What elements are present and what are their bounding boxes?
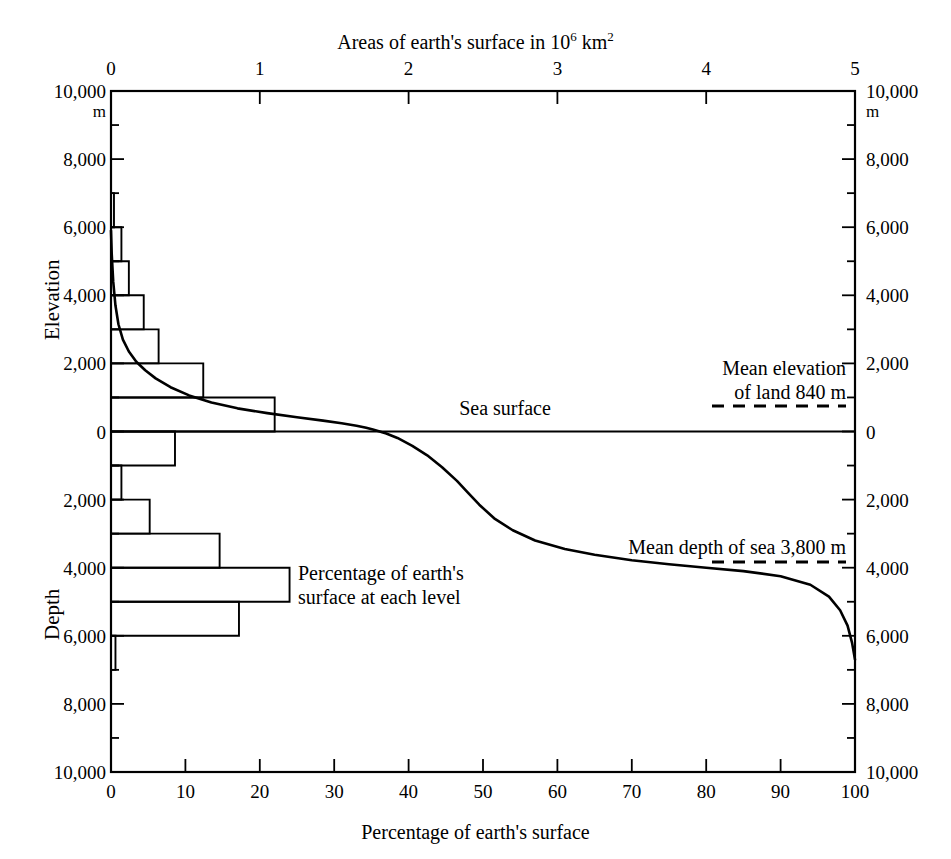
histogram-bar-12 <box>111 602 239 636</box>
bottom-tick-label-100: 100 <box>841 782 870 801</box>
top-tick-label-1: 1 <box>255 59 265 78</box>
annotation-mean-elevation-line1: Mean elevation <box>722 357 846 381</box>
left-tick-label-9: 8,000 <box>16 694 106 713</box>
annotation-histogram-line1: Percentage of earth's <box>298 562 464 586</box>
annotation-histogram-line2: surface at each level <box>298 586 464 610</box>
left-tick-label-2: 6,000 <box>16 218 106 237</box>
left-tick-label-10: 10,000 <box>16 763 106 782</box>
histogram-bar-8 <box>111 466 121 500</box>
histogram-bars <box>111 193 290 670</box>
annotation-histogram-label: Percentage of earth's surface at each le… <box>298 562 464 609</box>
right-tick-label-1: 8,000 <box>866 150 909 169</box>
top-tick-label-0: 0 <box>106 59 116 78</box>
bottom-tick-label-80: 80 <box>697 782 716 801</box>
bottom-tick-label-20: 20 <box>250 782 269 801</box>
top-tick-label-3: 3 <box>553 59 563 78</box>
right-tick-label-6: 2,000 <box>866 490 909 509</box>
right-tick-label-9: 8,000 <box>866 694 909 713</box>
bottom-tick-label-90: 90 <box>771 782 790 801</box>
annotation-sea-surface: Sea surface <box>459 398 551 418</box>
annotation-mean-elevation-line2: of land 840 m <box>722 381 846 405</box>
top-tick-label-5: 5 <box>850 59 860 78</box>
right-axis-unit-m: m <box>866 103 879 120</box>
right-tick-label-5: 0 <box>866 422 876 441</box>
annotation-mean-elevation: Mean elevation of land 840 m <box>722 357 846 404</box>
left-tick-label-5: 0 <box>16 422 106 441</box>
right-tick-label-7: 4,000 <box>866 558 909 577</box>
right-tick-label-2: 6,000 <box>866 218 909 237</box>
top-tick-label-2: 2 <box>404 59 414 78</box>
annotation-mean-depth: Mean depth of sea 3,800 m <box>628 537 846 557</box>
left-tick-label-1: 8,000 <box>16 150 106 169</box>
bottom-tick-label-60: 60 <box>548 782 567 801</box>
hypsographic-curve <box>111 231 855 660</box>
left-tick-label-6: 2,000 <box>16 490 106 509</box>
right-tick-label-8: 6,000 <box>866 626 909 645</box>
bottom-tick-label-10: 10 <box>176 782 195 801</box>
left-tick-label-0: 10,000 <box>16 82 106 101</box>
right-tick-label-4: 2,000 <box>866 354 909 373</box>
bottom-tick-label-50: 50 <box>474 782 493 801</box>
left-axis-unit-m: m <box>68 103 106 120</box>
histogram-bar-9 <box>111 500 150 534</box>
right-tick-label-10: 10,000 <box>866 763 918 782</box>
histogram-bar-11 <box>111 568 290 602</box>
top-tick-label-4: 4 <box>701 59 711 78</box>
left-tick-label-3: 4,000 <box>16 286 106 305</box>
histogram-bar-6 <box>111 397 275 431</box>
left-tick-label-7: 4,000 <box>16 558 106 577</box>
right-tick-label-3: 4,000 <box>866 286 909 305</box>
chart-plot-svg <box>0 0 951 859</box>
left-tick-label-8: 6,000 <box>16 626 106 645</box>
right-tick-label-0: 10,000 <box>866 82 918 101</box>
left-tick-label-4: 2,000 <box>16 354 106 373</box>
bottom-tick-label-30: 30 <box>325 782 344 801</box>
chart-canvas: Areas of earth's surface in 106 km2 Perc… <box>0 0 951 859</box>
bottom-tick-label-40: 40 <box>399 782 418 801</box>
histogram-bar-10 <box>111 534 220 568</box>
bottom-tick-label-70: 70 <box>622 782 641 801</box>
histogram-bar-7 <box>111 432 175 466</box>
bottom-tick-label-0: 0 <box>106 782 116 801</box>
